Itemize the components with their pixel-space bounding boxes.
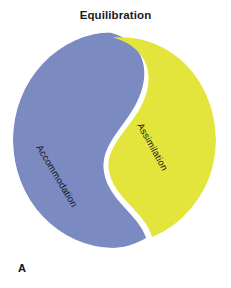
yin-yang-diagram-svg bbox=[0, 0, 231, 288]
equilibration-diagram bbox=[0, 0, 231, 288]
figure-root: Equilibration Accommodation Assimilation… bbox=[0, 0, 231, 288]
panel-letter: A bbox=[18, 262, 26, 275]
